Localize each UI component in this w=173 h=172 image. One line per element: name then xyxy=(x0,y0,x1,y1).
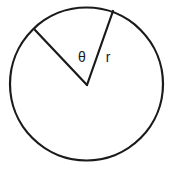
angle-label-theta: θ xyxy=(78,49,86,65)
circle-sector-diagram: θ r xyxy=(0,0,173,172)
geometry-canvas: θ r xyxy=(0,0,173,172)
radius-label-r: r xyxy=(106,49,111,65)
